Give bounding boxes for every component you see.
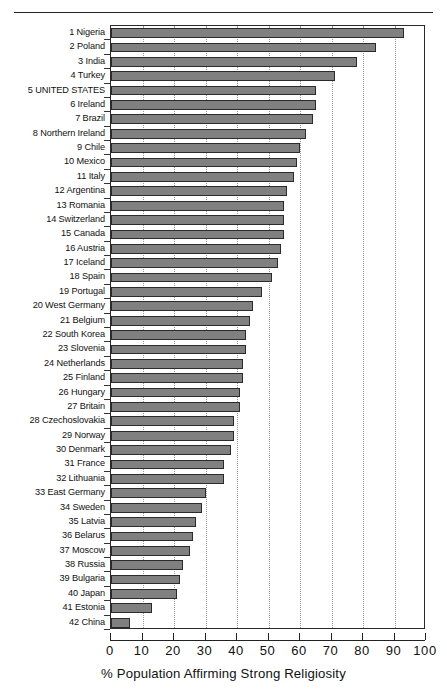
bar [111, 28, 404, 38]
bar [111, 273, 272, 283]
category-label: 36 Belarus [0, 528, 105, 542]
bar-row [111, 213, 424, 227]
bar [111, 158, 297, 168]
bar-row [111, 587, 424, 601]
x-tick-30 [205, 633, 206, 640]
bar [111, 244, 281, 254]
bar [111, 114, 313, 124]
bar [111, 230, 284, 240]
bar-row [111, 184, 424, 198]
bar-row [111, 40, 424, 54]
category-label: 34 Sweden [0, 500, 105, 514]
category-label-column: 1 Nigeria2 Poland3 India4 Turkey5 UNITED… [0, 25, 107, 629]
bar [111, 129, 306, 139]
bar [111, 474, 224, 484]
bar-row [111, 314, 424, 328]
category-label: 5 UNITED STATES [0, 83, 105, 97]
x-axis-title: % Population Affirming Strong Religiosit… [0, 666, 447, 681]
category-label: 39 Bulgaria [0, 571, 105, 585]
bar-row [111, 616, 424, 630]
bar-row [111, 242, 424, 256]
bar-row [111, 400, 424, 414]
category-label: 23 Slovenia [0, 341, 105, 355]
bar-row [111, 342, 424, 356]
bar [111, 589, 177, 599]
bar-row [111, 127, 424, 141]
bar [111, 416, 234, 426]
bar [111, 460, 224, 470]
bar [111, 618, 130, 628]
bar [111, 503, 202, 513]
bar [111, 330, 246, 340]
category-label: 4 Turkey [0, 68, 105, 82]
bar-row [111, 141, 424, 155]
category-label: 37 Moscow [0, 543, 105, 557]
bar [111, 86, 316, 96]
category-label: 19 Portugal [0, 284, 105, 298]
bar-row [111, 414, 424, 428]
category-label: 28 Czechoslovakia [0, 413, 105, 427]
bar [111, 258, 278, 268]
bar-row [111, 98, 424, 112]
bar-row [111, 558, 424, 572]
bar-row [111, 572, 424, 586]
category-label: 12 Argentina [0, 183, 105, 197]
category-label: 11 Italy [0, 169, 105, 183]
category-label: 16 Austria [0, 241, 105, 255]
bar [111, 359, 243, 369]
bar [111, 560, 183, 570]
category-label: 9 Chile [0, 140, 105, 154]
category-label: 25 Finland [0, 370, 105, 384]
bar-row [111, 256, 424, 270]
bar [111, 71, 335, 81]
category-label: 24 Netherlands [0, 356, 105, 370]
bar-row [111, 170, 424, 184]
category-label: 18 Spain [0, 269, 105, 283]
religiosity-bar-chart-figure: 1 Nigeria2 Poland3 India4 Turkey5 UNITED… [0, 0, 447, 697]
bar [111, 143, 300, 153]
x-tick-label: 100 [405, 643, 445, 658]
category-label: 15 Canada [0, 226, 105, 240]
category-label: 41 Estonia [0, 600, 105, 614]
x-axis-line [110, 640, 425, 641]
category-label: 17 Iceland [0, 255, 105, 269]
category-label: 38 Russia [0, 557, 105, 571]
bar-row [111, 486, 424, 500]
x-tick-80 [362, 633, 363, 640]
bar [111, 287, 262, 297]
bar-row [111, 299, 424, 313]
x-tick-70 [331, 633, 332, 640]
category-label: 32 Lithuania [0, 471, 105, 485]
bar [111, 546, 190, 556]
category-label: 2 Poland [0, 39, 105, 53]
category-label: 35 Latvia [0, 514, 105, 528]
bar-row [111, 26, 424, 40]
bar [111, 575, 180, 585]
category-label: 1 Nigeria [0, 25, 105, 39]
bar [111, 431, 234, 441]
x-tick-40 [236, 633, 237, 640]
bar-row [111, 328, 424, 342]
category-label: 42 China [0, 615, 105, 629]
bar-row [111, 112, 424, 126]
category-label: 22 South Korea [0, 327, 105, 341]
bar [111, 186, 287, 196]
bar [111, 388, 240, 398]
bar [111, 201, 284, 211]
category-label: 3 India [0, 54, 105, 68]
bar-row [111, 227, 424, 241]
category-label: 27 Britain [0, 399, 105, 413]
bar [111, 43, 376, 53]
x-tick-90 [394, 633, 395, 640]
bar [111, 373, 243, 383]
bar [111, 532, 193, 542]
bar-row [111, 501, 424, 515]
bar [111, 100, 316, 110]
bar-row [111, 443, 424, 457]
bar [111, 172, 294, 182]
bar-row [111, 69, 424, 83]
category-label: 20 West Germany [0, 298, 105, 312]
bar [111, 301, 253, 311]
category-label: 33 East Germany [0, 485, 105, 499]
bar-row [111, 270, 424, 284]
